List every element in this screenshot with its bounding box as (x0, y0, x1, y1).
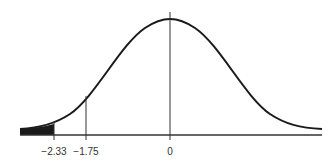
tick-label-neg233: −2.33 (41, 146, 66, 157)
tick-label-neg175: −1.75 (73, 146, 98, 157)
tick-label-zero: 0 (167, 146, 173, 157)
normal-curve (20, 19, 322, 129)
normal-distribution-chart (0, 0, 335, 165)
